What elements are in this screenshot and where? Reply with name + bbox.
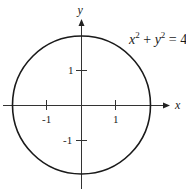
- x-tick-label-1: 1: [113, 113, 119, 125]
- x-axis-arrow-icon: [163, 103, 170, 109]
- x-axis-label: x: [174, 98, 181, 112]
- y-axis-label: y: [77, 3, 84, 17]
- y-axis-arrow-icon: [79, 19, 85, 26]
- y-tick-label-1: 1: [68, 64, 74, 76]
- equation-label: x2 + y2 = 4: [129, 30, 186, 48]
- x-tick-label-neg1: -1: [42, 113, 51, 125]
- circle-plot: x y -1 1 1 -1: [0, 0, 186, 189]
- y-tick-label-neg1: -1: [63, 134, 72, 146]
